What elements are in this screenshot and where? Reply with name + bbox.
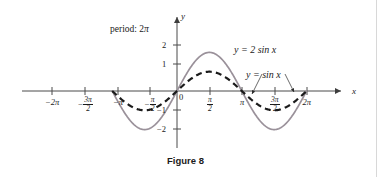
origin-label: 0 (179, 93, 183, 102)
period-prefix: period: 2 (110, 24, 144, 34)
x-tick-label: 3π2 (270, 96, 280, 112)
curve-label-2-sin-x: y = 2 sin x (234, 45, 276, 55)
x-tick-label: −3π2 (78, 96, 93, 112)
y-axis-label: y (181, 12, 185, 21)
x-tick-label: π (240, 98, 244, 107)
curve-label-sin-x: y = sin x (246, 70, 281, 80)
plot-svg (0, 0, 377, 177)
x-tick-label: 2π (303, 98, 312, 107)
x-tick-label: −π2 (144, 96, 156, 112)
y-tick-label: −1 (157, 106, 166, 115)
y-tick-label: −2 (157, 125, 166, 134)
leader-line (285, 74, 294, 92)
x-tick-label: π2 (207, 96, 213, 112)
y-tick-label: 2 (162, 41, 166, 50)
x-axis-label: x (352, 87, 356, 96)
period-pi-symbol: π (144, 24, 149, 34)
figure-caption: Figure 8 (167, 155, 204, 166)
figure-container: period: 2π y = 2 sin x y = sin x x y 0 −… (0, 0, 377, 177)
y-tick-label: 1 (162, 60, 166, 69)
x-tick-label: −π (113, 98, 123, 107)
period-annotation: period: 2π (110, 25, 149, 35)
x-tick-label: −2π (45, 98, 59, 107)
